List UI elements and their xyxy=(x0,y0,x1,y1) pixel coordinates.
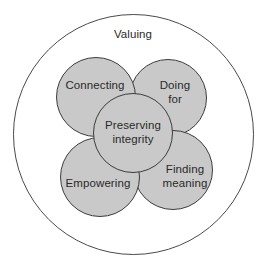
connecting-label: Connecting xyxy=(60,78,130,92)
valuing-label: Valuing xyxy=(103,27,163,41)
empowering-label: Empowering xyxy=(61,176,135,190)
finding-meaning-label: Finding meaning xyxy=(158,162,212,190)
caring-model-diagram: Valuing Doing for Connecting Finding mea… xyxy=(0,0,269,274)
preserving-integrity-label: Preserving integrity xyxy=(98,118,168,146)
